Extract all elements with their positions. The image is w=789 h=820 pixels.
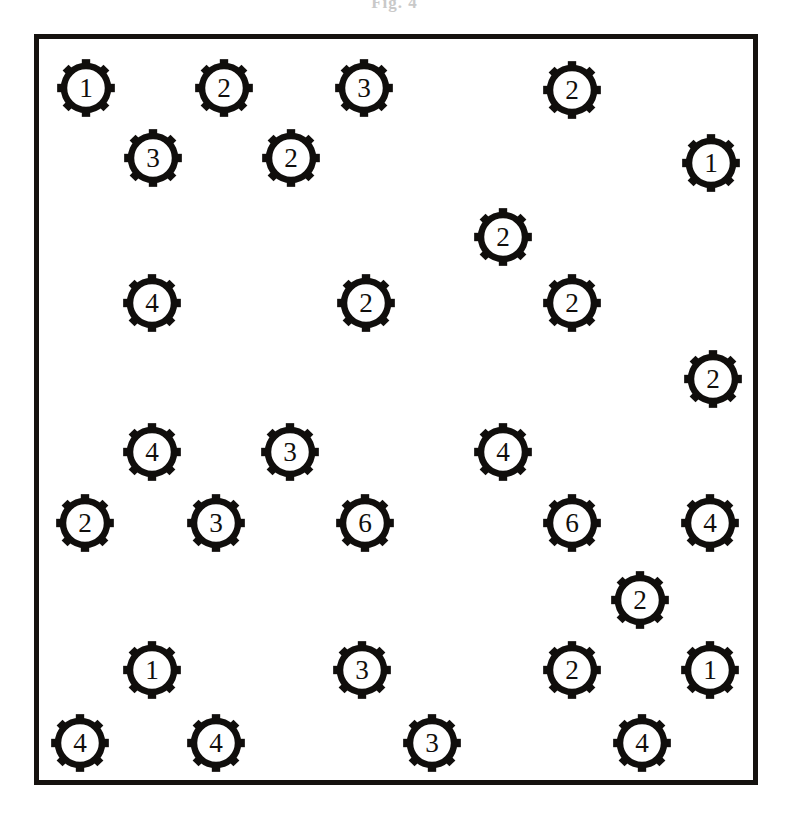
gear-icon: 2 [541, 639, 603, 701]
gear-label: 1 [703, 655, 717, 685]
gear-label: 3 [209, 508, 223, 538]
gear-icon: 2 [193, 57, 255, 119]
gear-icon: 4 [611, 712, 673, 774]
gear-label: 3 [425, 728, 439, 758]
gear-icon: 2 [54, 492, 116, 554]
gear-icon: 1 [55, 57, 117, 119]
gear-label: 3 [355, 655, 369, 685]
gear-icon: 2 [541, 59, 603, 121]
gear-label: 4 [73, 728, 87, 758]
gear-icon: 4 [121, 421, 183, 483]
gear-icon: 3 [333, 57, 395, 119]
gear-icon: 6 [541, 492, 603, 554]
gear-label: 2 [706, 364, 720, 394]
gear-label: 3 [146, 143, 160, 173]
gear-icon: 3 [259, 421, 321, 483]
gear-label: 2 [633, 585, 647, 615]
gear-label: 2 [78, 508, 92, 538]
gear-label: 2 [217, 73, 231, 103]
gear-icon: 3 [401, 712, 463, 774]
gear-label: 2 [496, 222, 510, 252]
gear-icon: 4 [679, 492, 741, 554]
gear-icon: 2 [541, 272, 603, 334]
gear-icon: 4 [49, 712, 111, 774]
gear-label: 4 [703, 508, 717, 538]
gear-label: 1 [704, 148, 718, 178]
gear-label: 2 [565, 288, 579, 318]
gear-icon: 4 [472, 421, 534, 483]
gear-icon: 2 [335, 272, 397, 334]
gear-label: 2 [565, 655, 579, 685]
gear-icon: 1 [121, 639, 183, 701]
gear-icon: 2 [260, 127, 322, 189]
gear-icon: 3 [331, 639, 393, 701]
gear-icon: 1 [680, 132, 742, 194]
gear-label: 3 [283, 437, 297, 467]
gear-icon: 6 [334, 492, 396, 554]
gear-label: 1 [145, 655, 159, 685]
gear-label: 6 [358, 508, 372, 538]
gear-icon: 2 [609, 569, 671, 631]
gear-label: 4 [145, 288, 159, 318]
gear-label: 2 [359, 288, 373, 318]
gear-label: 4 [209, 728, 223, 758]
gear-label: 2 [284, 143, 298, 173]
gear-layer: 12323212422243423664213214434 [0, 0, 789, 820]
gear-icon: 1 [679, 639, 741, 701]
gear-label: 1 [79, 73, 93, 103]
gear-icon: 3 [122, 127, 184, 189]
gear-label: 2 [565, 75, 579, 105]
gear-label: 6 [565, 508, 579, 538]
gear-icon: 4 [121, 272, 183, 334]
gear-icon: 4 [185, 712, 247, 774]
gear-label: 4 [496, 437, 510, 467]
figure-canvas: Fig. 4 12323212422243423664213214434 [0, 0, 789, 820]
gear-icon: 2 [472, 206, 534, 268]
gear-icon: 3 [185, 492, 247, 554]
gear-label: 4 [145, 437, 159, 467]
gear-icon: 2 [682, 348, 744, 410]
gear-label: 4 [635, 728, 649, 758]
gear-label: 3 [357, 73, 371, 103]
